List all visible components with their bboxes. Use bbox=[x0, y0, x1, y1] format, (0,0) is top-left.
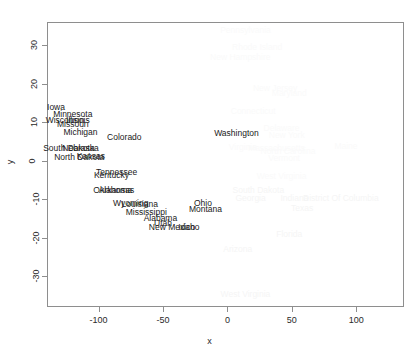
x-tick-mark bbox=[227, 307, 228, 312]
y-tick-label: 0 bbox=[27, 158, 37, 163]
data-point-label: Rhode Island bbox=[232, 42, 282, 51]
x-tick-label: 50 bbox=[287, 315, 297, 325]
data-point-label: Washington bbox=[214, 129, 259, 138]
y-tick-label: 20 bbox=[29, 79, 39, 89]
y-tick-label: -20 bbox=[31, 231, 41, 244]
data-point-label: Arizona bbox=[223, 245, 252, 254]
y-tick-label: -30 bbox=[31, 270, 41, 283]
y-tick-mark bbox=[42, 45, 47, 46]
y-tick-label: -10 bbox=[31, 193, 41, 206]
y-tick-label: 30 bbox=[29, 40, 39, 50]
y-tick-label: 10 bbox=[29, 117, 39, 127]
data-point-label: Maine bbox=[334, 142, 357, 151]
x-tick-label: 100 bbox=[349, 315, 364, 325]
data-point-label: Pennsylvania bbox=[220, 25, 271, 34]
x-axis-title: x bbox=[0, 336, 419, 346]
data-point-label: Texas bbox=[291, 204, 313, 213]
data-point-label: New Hampshire bbox=[210, 53, 270, 62]
x-tick-label: 0 bbox=[225, 315, 230, 325]
x-tick-label: -50 bbox=[156, 315, 169, 325]
data-point-label: Florida bbox=[276, 230, 302, 239]
data-point-label: Kentucky bbox=[94, 171, 129, 180]
data-point-label: Vermont bbox=[268, 154, 300, 163]
data-point-label: District Of Columbia bbox=[303, 194, 379, 203]
data-point-label: Arkansas bbox=[99, 186, 134, 195]
x-tick-label: -100 bbox=[90, 315, 108, 325]
y-tick-mark bbox=[42, 199, 47, 200]
data-point-label: West Virginia bbox=[221, 290, 271, 299]
y-axis-title: y bbox=[5, 160, 15, 165]
data-point-label: Kansas bbox=[77, 152, 105, 161]
data-point-label: Colorado bbox=[107, 133, 142, 142]
x-tick-mark bbox=[356, 307, 357, 312]
y-tick-mark bbox=[42, 84, 47, 85]
data-point-label: Connecticut bbox=[231, 106, 276, 115]
scatter-plot-figure: -100-50050100 -30-20-100102030 IowaMinne… bbox=[0, 0, 419, 358]
data-point-label: West Virginia bbox=[257, 172, 307, 181]
y-tick-mark bbox=[42, 161, 47, 162]
data-point-label: Idaho bbox=[178, 223, 199, 232]
data-point-label: Georgia bbox=[236, 194, 266, 203]
y-tick-mark bbox=[42, 276, 47, 277]
y-tick-mark bbox=[42, 238, 47, 239]
x-tick-mark bbox=[99, 307, 100, 312]
data-point-label: Montana bbox=[189, 205, 222, 214]
plot-panel bbox=[47, 22, 404, 307]
x-tick-mark bbox=[163, 307, 164, 312]
x-tick-mark bbox=[292, 307, 293, 312]
data-point-label: Maryland bbox=[272, 89, 307, 98]
data-point-label: New York bbox=[269, 131, 305, 140]
data-point-label: Michigan bbox=[63, 128, 97, 137]
